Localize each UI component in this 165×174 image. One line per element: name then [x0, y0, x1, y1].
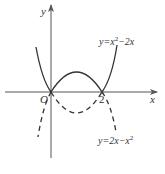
equation-upward-prefix: y=x: [99, 36, 115, 47]
curve-upward-trough-dashed: [51, 92, 102, 113]
curve-downward-arch-solid: [51, 72, 102, 92]
x-axis-label: x: [150, 94, 155, 105]
curve-upward-left-solid: [36, 47, 51, 92]
equation-downward-exponent: 2: [130, 134, 134, 142]
equation-label-downward: y=2x−x2: [98, 135, 133, 146]
function-graph-figure: y x O 2 y=x2−2x y=2x−x2: [0, 0, 165, 174]
y-axis-label: y: [41, 6, 46, 17]
equation-upward-suffix: −2x: [118, 36, 134, 47]
equation-label-upward: y=x2−2x: [99, 36, 134, 47]
curve-upward-right-solid: [102, 45, 117, 92]
tick-label-2: 2: [99, 94, 105, 105]
equation-downward-prefix: y=2x−x: [98, 135, 130, 146]
origin-label: O: [40, 94, 48, 105]
graph-canvas: [0, 0, 165, 174]
